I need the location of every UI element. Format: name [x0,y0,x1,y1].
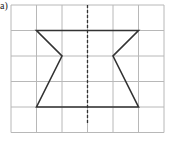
grid-diagram [0,0,170,141]
square-grid [11,5,164,133]
